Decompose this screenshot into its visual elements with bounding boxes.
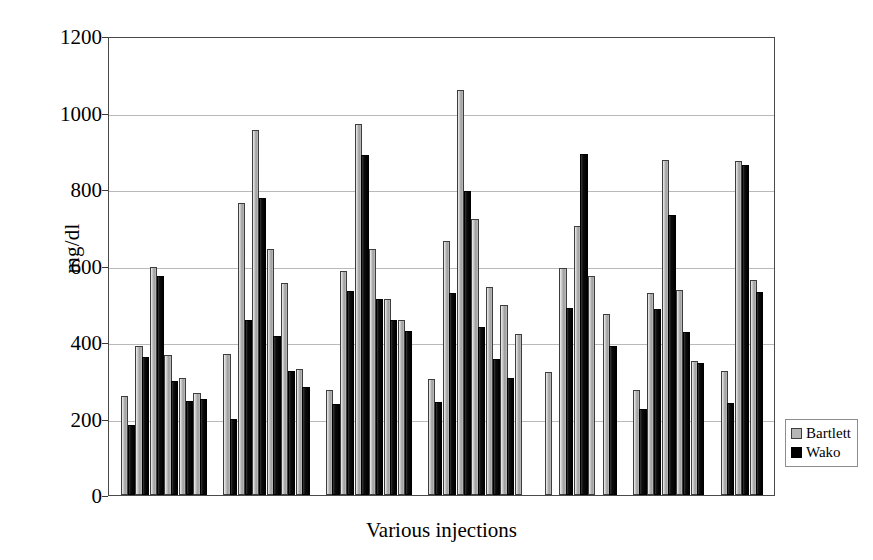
y-axis-tick-label: 600 <box>36 256 102 277</box>
bar-bartlett <box>515 334 522 495</box>
y-axis-tick-label: 800 <box>36 180 102 201</box>
bar-wako <box>493 359 500 495</box>
bar-wako <box>142 357 149 495</box>
bar-wako <box>347 291 354 495</box>
x-axis-title: Various injections <box>108 518 775 543</box>
bar-wako <box>609 346 616 495</box>
bar-wako <box>376 299 383 495</box>
bar-wako <box>245 320 252 495</box>
bar-wako <box>668 215 675 495</box>
bar-bartlett <box>545 372 552 495</box>
bar-wako <box>683 332 690 495</box>
bar-wako <box>273 336 280 495</box>
bar-wako <box>230 419 237 495</box>
bar-wako <box>478 327 485 495</box>
legend-item: Bartlett <box>791 424 851 443</box>
bar-wako <box>405 331 412 495</box>
bar-wako <box>157 276 164 495</box>
y-axis-tick-label: 400 <box>36 333 102 354</box>
bar-wako <box>128 425 135 495</box>
plot-area <box>108 37 775 496</box>
legend-label: Bartlett <box>806 426 851 441</box>
legend-swatch-wako <box>791 447 802 458</box>
bar-wako <box>332 404 339 495</box>
legend-label: Wako <box>806 445 841 460</box>
legend-item: Wako <box>791 443 851 462</box>
bar-wako <box>200 399 207 495</box>
bar-wako <box>302 387 309 495</box>
bar-wako <box>756 292 763 495</box>
y-axis-tick-mark <box>102 496 108 497</box>
bar-wako <box>259 198 266 495</box>
y-axis-tick-labels: 020040060080010001200 <box>32 0 102 560</box>
bar-chart: mg/dl 020040060080010001200 Various inje… <box>0 0 873 560</box>
bar-wako <box>639 409 646 495</box>
legend-swatch-bartlett <box>791 428 802 439</box>
bar-wako <box>171 381 178 495</box>
bar-wako <box>697 363 704 495</box>
bars-layer <box>109 38 774 495</box>
bar-bartlett <box>588 276 595 495</box>
bar-wako <box>580 154 587 495</box>
bar-wako <box>464 191 471 495</box>
y-axis-tick-label: 1200 <box>36 27 102 48</box>
bar-wako <box>566 308 573 495</box>
bar-wako <box>288 371 295 495</box>
bar-wako <box>390 320 397 495</box>
bar-wako <box>654 309 661 495</box>
y-axis-tick-label: 200 <box>36 409 102 430</box>
bar-wako <box>727 403 734 495</box>
bar-wako <box>186 401 193 495</box>
bar-wako <box>449 293 456 495</box>
bar-wako <box>742 165 749 495</box>
bar-wako <box>435 402 442 495</box>
y-axis-tick-label: 0 <box>36 486 102 507</box>
chart-legend: BartlettWako <box>785 419 858 467</box>
y-axis-tick-label: 1000 <box>36 103 102 124</box>
bar-wako <box>361 155 368 495</box>
bar-wako <box>507 378 514 495</box>
